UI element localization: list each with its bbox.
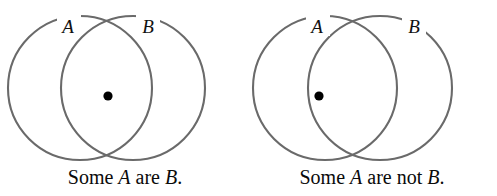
venn-diagram-figure-pair: A B Some A are B. A B Some A are [0, 0, 497, 196]
caption-object: B [427, 166, 439, 188]
caption-some-a-are-b: Some A are B. [0, 164, 250, 190]
set-label-b: B [142, 16, 154, 37]
caption-suffix: . [177, 166, 182, 188]
circle-a [8, 16, 152, 160]
caption-middle: are [131, 166, 165, 188]
caption-middle: are not [362, 166, 427, 188]
caption-prefix: Some [300, 166, 351, 188]
caption-object: B [165, 166, 177, 188]
member-dot [314, 91, 323, 100]
set-label-b: B [408, 16, 420, 37]
circle-b [308, 16, 452, 160]
figure-some-a-are-b: A B Some A are B. [0, 0, 250, 196]
caption-subject: A [118, 166, 130, 188]
caption-some-a-are-not-b: Some A are not B. [247, 164, 497, 190]
set-label-a: A [60, 16, 74, 37]
venn-svg-some-a-are-b: A B [0, 0, 250, 170]
figure-some-a-are-not-b: A B Some A are not B. [247, 0, 497, 196]
caption-suffix: . [439, 166, 444, 188]
circle-a [253, 16, 397, 160]
set-label-a: A [309, 16, 323, 37]
circle-b [61, 16, 205, 160]
caption-subject: A [350, 166, 362, 188]
venn-svg-some-a-are-not-b: A B [247, 0, 497, 170]
member-dot [103, 91, 112, 100]
caption-prefix: Some [68, 166, 119, 188]
